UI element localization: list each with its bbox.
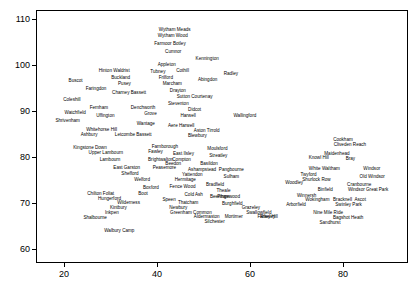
data-point-label: Marcham xyxy=(163,81,182,86)
data-point-label: Bray xyxy=(346,155,355,160)
x-tick-label: 20 xyxy=(59,269,69,279)
data-point-label: Walbury Camp xyxy=(104,227,134,232)
x-tick-mark xyxy=(250,263,251,267)
data-point-label: Harwell xyxy=(180,112,195,117)
data-point-label: Charney Bassett xyxy=(112,89,146,94)
data-point-label: Bradfield xyxy=(206,181,224,186)
y-tick-label: 70 xyxy=(4,198,30,208)
data-point-label: Upper Lambourn xyxy=(89,150,123,155)
data-point-label: Pangbourne xyxy=(219,167,244,172)
data-point-label: Knowl Hill xyxy=(309,155,329,160)
data-point-label: Grove xyxy=(144,110,157,115)
data-point-label: Ashbury xyxy=(81,132,98,137)
data-point-label: Blewbury xyxy=(188,133,207,138)
data-point-label: Radley xyxy=(224,70,238,75)
data-point-label: Boot xyxy=(138,191,147,196)
data-point-label: Drayton xyxy=(170,88,186,93)
data-point-label: Wantage xyxy=(137,121,155,126)
data-point-label: Speen xyxy=(162,196,175,201)
data-point-label: Shurlock Row xyxy=(302,176,330,181)
x-tick-mark xyxy=(157,263,158,267)
data-point-label: Sulham xyxy=(224,173,240,178)
data-point-label: Fence Wood xyxy=(170,184,196,189)
data-point-label: Watchfield xyxy=(64,109,85,114)
data-point-label: Cothill xyxy=(176,68,189,73)
data-point-label: East Ilsley xyxy=(173,150,194,155)
data-point-label: Whitehorse Hill xyxy=(86,126,117,131)
data-point-label: Windsor Great Park xyxy=(348,187,388,192)
x-tick-label: 40 xyxy=(152,269,162,279)
x-tick-label: 60 xyxy=(245,269,255,279)
data-point-label: Wytham Meads xyxy=(159,27,191,32)
data-point-label: Burghfield xyxy=(222,201,243,206)
x-tick-label: 80 xyxy=(338,269,348,279)
data-point-label: Binfield xyxy=(318,187,333,192)
data-point-label: Frilford xyxy=(159,75,173,80)
x-tick-mark xyxy=(343,263,344,267)
data-point-label: Aston Tirrold xyxy=(194,127,220,132)
data-point-label: Cliveden Reach xyxy=(334,141,366,146)
data-point-label: Sutton Courtenay xyxy=(177,94,213,99)
data-point-label: Farmoor Botley xyxy=(154,40,185,45)
data-point-label: Steventon xyxy=(168,100,189,105)
data-point-label: Cold Ash xyxy=(185,191,203,196)
plot-panel: Wytham MeadsWytham WoodFarmoor BotleyCum… xyxy=(36,10,408,263)
data-point-label: Newbury xyxy=(169,204,187,209)
data-point-label: Pusey xyxy=(118,81,131,86)
data-point-label: Woodley xyxy=(285,179,303,184)
data-point-label: Welford xyxy=(134,176,150,181)
x-tick-mark xyxy=(64,263,65,267)
y-tick-label: 60 xyxy=(4,244,30,254)
data-point-label: Buscot xyxy=(69,78,83,83)
data-point-label: Kingstone Down xyxy=(73,144,106,149)
data-point-label: Hermitage xyxy=(175,177,196,182)
y-tick-label: 100 xyxy=(4,60,30,70)
data-point-label: Uffington xyxy=(96,112,114,117)
y-tick-label: 110 xyxy=(4,14,30,24)
data-point-label: Tubney xyxy=(150,69,165,74)
data-point-label: Hinton Waldrist xyxy=(99,67,130,72)
data-point-label: Shrivenham xyxy=(55,118,80,123)
data-point-label: Mortimer xyxy=(225,214,243,219)
data-point-label: Letcombe Bassett xyxy=(115,132,152,137)
data-point-label: Lambourn xyxy=(100,157,121,162)
data-point-label: Chilton Foliat xyxy=(87,190,114,195)
data-point-label: Fernham xyxy=(90,104,108,109)
y-tick-label: 80 xyxy=(4,152,30,162)
data-point-label: Boxford xyxy=(143,184,159,189)
data-point-label: Moulsford xyxy=(207,145,227,150)
data-point-label: Cumnor xyxy=(165,48,181,53)
data-point-label: Didcot xyxy=(188,106,201,111)
y-tick-label: 90 xyxy=(4,106,30,116)
data-point-label: Aere Harwell xyxy=(168,122,194,127)
data-point-label: Cranbourne xyxy=(347,181,371,186)
data-point-label: Basildon xyxy=(200,161,218,166)
data-point-label: Shefford xyxy=(121,170,138,175)
data-point-label: Arborfield xyxy=(286,202,306,207)
data-point-label: Theale xyxy=(216,188,230,193)
data-point-label: Abingdon xyxy=(198,76,217,81)
data-point-label: Farley Hill xyxy=(257,214,277,219)
data-point-label: Buckland xyxy=(111,74,130,79)
data-point-label: Faringdon xyxy=(86,86,107,91)
data-point-label: Appleton xyxy=(158,61,176,66)
data-point-label: Windsor xyxy=(363,166,380,171)
data-point-label: Wytham Wood xyxy=(158,32,188,37)
data-point-label: East Garston xyxy=(113,165,140,170)
data-point-label: Coleshill xyxy=(63,96,80,101)
data-point-label: Wallingford xyxy=(233,112,256,117)
data-point-label: Silchester xyxy=(205,219,225,224)
data-point-label: Shalbourne xyxy=(83,214,107,219)
data-point-label: Peasemore xyxy=(153,165,177,170)
scatter-chart: 60708090100110 20406080 Wytham MeadsWyth… xyxy=(0,0,420,303)
data-point-label: Streatley xyxy=(209,152,227,157)
data-point-label: Sandhurst xyxy=(319,220,340,225)
data-point-label: Wokingham xyxy=(305,197,329,202)
data-point-label: Old Windsor xyxy=(360,174,385,179)
data-point-label: Denchworth xyxy=(131,105,156,110)
data-point-label: White Waltham xyxy=(309,166,340,171)
data-point-label: Kennington xyxy=(196,56,219,61)
data-point-label: Fawley xyxy=(148,149,163,154)
data-point-label: Nine Mile Ride xyxy=(313,209,343,214)
data-point-label: Swinley Park xyxy=(335,202,362,207)
